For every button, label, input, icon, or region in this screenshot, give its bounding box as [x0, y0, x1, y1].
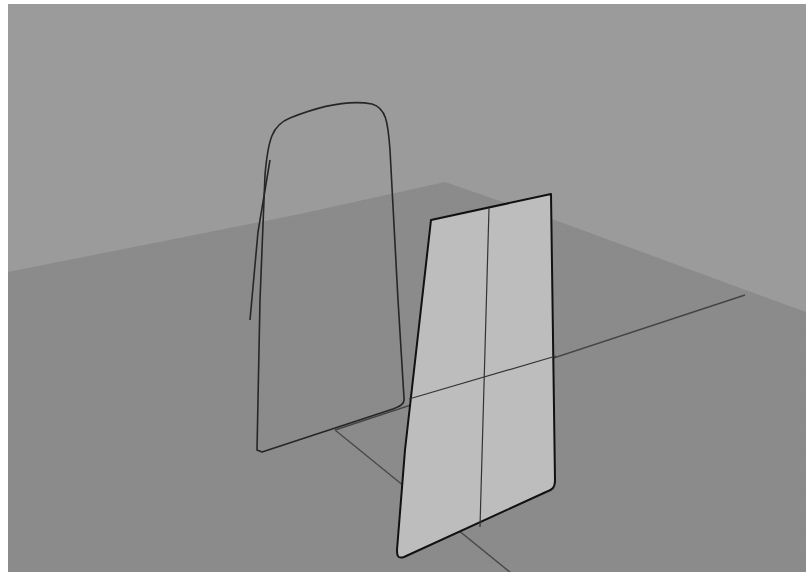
perspective-viewport[interactable]: [8, 4, 806, 572]
viewport-canvas[interactable]: [8, 4, 806, 572]
